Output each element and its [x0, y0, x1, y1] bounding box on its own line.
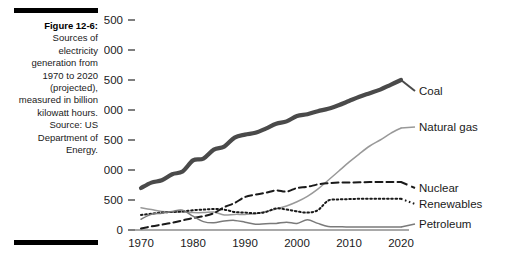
x-tick-label: 2000 — [284, 237, 310, 249]
line-chart: 05001,0001,5002,0002,5003,0003,500 19701… — [104, 0, 509, 263]
y-tick-label: 3,000 — [104, 44, 123, 56]
y-tick-label: 0 — [117, 224, 123, 236]
series-leader-nuclear — [401, 182, 415, 188]
series-line-renewables — [141, 199, 401, 215]
x-tick-label: 1980 — [180, 237, 206, 249]
caption-rule-bottom — [14, 240, 98, 245]
figure-number-label: Figure 12-6: — [44, 20, 98, 31]
figure-12-6: Figure 12-6: Sources of electricity gene… — [0, 0, 509, 263]
figure-caption-block: Figure 12-6: Sources of electricity gene… — [14, 8, 104, 255]
x-tick-label: 1990 — [232, 237, 258, 249]
series-leader-petroleum — [401, 224, 415, 227]
y-tick-label: 1,000 — [104, 164, 123, 176]
series-label-natural-gas: Natural gas — [419, 121, 478, 133]
y-tick-label: 3,500 — [104, 14, 123, 26]
series-line-coal — [141, 80, 401, 188]
y-tick-label: 1,500 — [104, 134, 123, 146]
series-lines — [141, 80, 401, 229]
series-labels: CoalNatural gasNuclearRenewablesPetroleu… — [401, 80, 483, 230]
series-label-nuclear: Nuclear — [419, 182, 459, 194]
series-leader-coal — [401, 80, 415, 91]
series-line-nuclear — [141, 182, 401, 229]
y-tick-label: 2,000 — [104, 104, 123, 116]
series-leader-natural-gas — [401, 127, 415, 128]
series-leader-renewables — [401, 199, 415, 204]
y-tick-label: 500 — [104, 194, 123, 206]
x-tick-label: 1970 — [128, 237, 154, 249]
series-label-renewables: Renewables — [419, 198, 483, 210]
caption-source: Source: US Department of Energy. — [38, 119, 98, 155]
x-axis-ticks: 197019801990200020102020 — [128, 237, 414, 249]
y-tick-label: 2,500 — [104, 74, 123, 86]
x-tick-label: 2010 — [336, 237, 362, 249]
x-tick-label: 2020 — [388, 237, 414, 249]
y-axis-ticks: 05001,0001,5002,0002,5003,0003,500 — [104, 14, 135, 236]
caption-rule-top — [14, 8, 98, 13]
chart-canvas: 05001,0001,5002,0002,5003,0003,500 19701… — [104, 0, 509, 263]
series-label-coal: Coal — [419, 85, 443, 97]
series-label-petroleum: Petroleum — [419, 218, 471, 230]
caption-text: Figure 12-6: Sources of electricity gene… — [14, 20, 98, 156]
caption-body: Sources of electricity generation from 1… — [19, 32, 98, 117]
